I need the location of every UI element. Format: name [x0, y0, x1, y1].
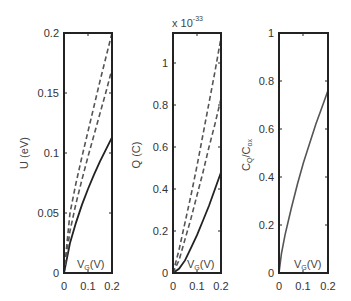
panel-cq: 0 0.2 0.4 0.6 0.8 1 0 0.1 0.2 CQ/Cox VG(…	[240, 27, 336, 292]
panel-u-ytick: 0.05	[38, 207, 59, 219]
panel-cq-ylabel: CQ/Cox	[240, 139, 254, 171]
panel-cq-curves	[279, 91, 328, 273]
panel-u-xtick: 0	[61, 280, 67, 292]
panel-cq-xtick: 0.2	[320, 280, 335, 292]
panel-q-ytick: 0.6	[153, 141, 168, 153]
panel-u: 0 0.05 0.1 0.15 0.2 0 0.1 0.2 U (eV) VG(…	[18, 27, 120, 292]
panel-u-ytick: 0	[53, 267, 59, 279]
panel-q-xtick: 0.1	[189, 280, 204, 292]
panel-q-curves	[173, 38, 221, 273]
panel-q: 0 0.2 0.4 0.6 0.8 1 0 0.1 0.2 Q (C) x 10…	[130, 15, 229, 292]
panel-q-xlabel: VG(V)	[187, 258, 214, 271]
panel-u-curves	[64, 33, 112, 273]
panel-q-ytick: 1	[162, 57, 168, 69]
panel-cq-tick-marks	[279, 33, 328, 273]
panel-u-ytick: 0.2	[44, 27, 59, 39]
curve-dashed-outer	[173, 38, 221, 273]
panel-u-ytick: 0.15	[38, 87, 59, 99]
panel-cq-xlabel: VG(V)	[294, 258, 321, 271]
panel-cq-ytick: 0	[268, 267, 274, 279]
curve-solid	[279, 91, 328, 273]
panel-q-xtick: 0	[170, 280, 176, 292]
panel-cq-xtick: 0	[276, 280, 282, 292]
panel-u-ytick: 0.1	[44, 147, 59, 159]
panel-cq-xtick: 0.1	[295, 280, 310, 292]
panel-q-ylabel: Q (C)	[130, 142, 142, 169]
panel-q-xtick: 0.2	[213, 280, 228, 292]
panel-q-ytick: 0	[162, 267, 168, 279]
curve-dashed-inner	[64, 69, 112, 273]
panel-q-ytick: 0.2	[153, 225, 168, 237]
panel-u-xtick: 0.1	[80, 280, 95, 292]
panel-q-ytick: 0.4	[153, 183, 168, 195]
panel-cq-ytick: 0.8	[259, 75, 274, 87]
panel-cq-ytick: 1	[268, 27, 274, 39]
panel-cq-ytick: 0.4	[259, 171, 274, 183]
panel-u-xlabel: VG(V)	[77, 258, 104, 271]
panel-cq-ytick: 0.2	[259, 219, 274, 231]
panel-q-ytick: 0.8	[153, 99, 168, 111]
panel-u-ylabel: U (eV)	[18, 137, 30, 169]
panel-u-xtick: 0.2	[104, 280, 119, 292]
panel-cq-axes-frame	[279, 33, 328, 273]
panel-q-multiplier: x 10-33	[172, 15, 203, 29]
panel-cq-ytick: 0.6	[259, 123, 274, 135]
figure-canvas: 0 0.05 0.1 0.15 0.2 0 0.1 0.2 U (eV) VG(…	[0, 0, 351, 301]
